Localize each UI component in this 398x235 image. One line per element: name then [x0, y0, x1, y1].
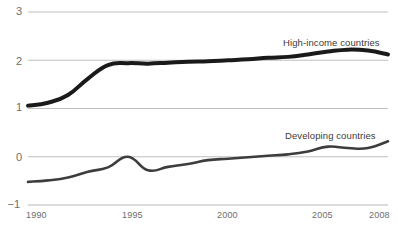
- x-tick-label-1995: 1995: [122, 210, 143, 220]
- y-tick-label-minus-1: −1: [0, 199, 20, 210]
- x-tick-label-1990: 1990: [26, 210, 47, 220]
- x-tick-label-2000: 2000: [217, 210, 238, 220]
- y-tick-label-2: 2: [2, 56, 22, 67]
- y-tick-label-3: 3: [2, 6, 22, 17]
- series-label-high-income: High-income countries: [283, 37, 380, 48]
- series-lines: [28, 50, 388, 182]
- x-tick-label-2005: 2005: [312, 210, 333, 220]
- x-tick-label-2008: 2008: [369, 210, 390, 220]
- series-label-developing: Developing countries: [285, 130, 376, 141]
- y-tick-label-1: 1: [2, 102, 22, 113]
- chart-canvas: [0, 0, 398, 235]
- series-line-developing: [28, 141, 388, 182]
- line-chart: 3 2 1 0 −1 1990 1995 2000 2005 2008 High…: [0, 0, 398, 235]
- y-tick-label-0: 0: [2, 152, 22, 163]
- series-line-high-income: [28, 50, 388, 106]
